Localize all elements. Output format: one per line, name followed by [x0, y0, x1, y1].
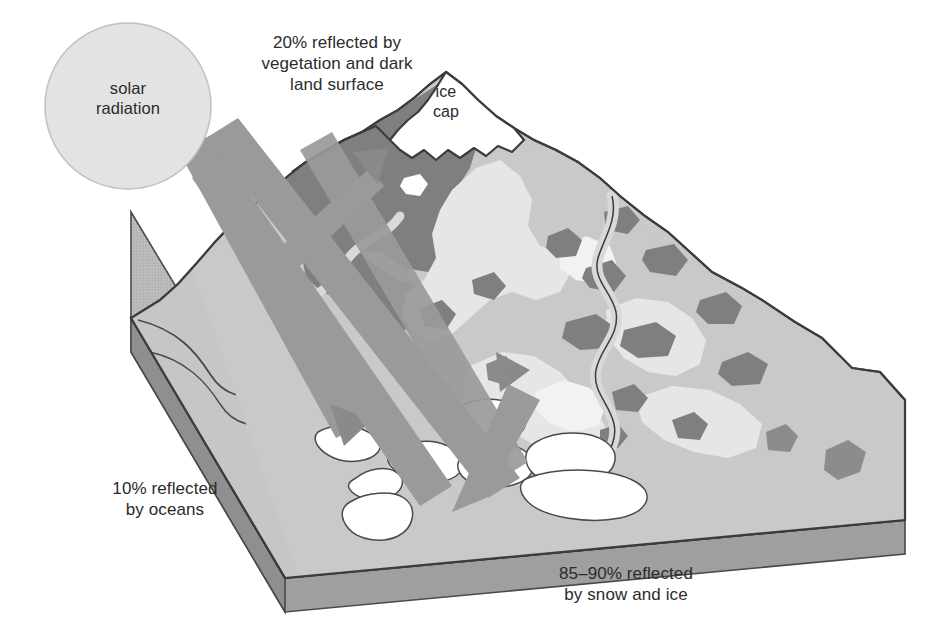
ice-cap-label: ice cap [414, 82, 478, 122]
snow-ice-reflection-label: 85–90% reflected by snow and ice [516, 563, 736, 605]
ocean-reflection-label: 10% reflected by oceans [70, 478, 260, 520]
diagram-canvas: solar radiation 20% reflected by vegetat… [0, 0, 952, 630]
solar-radiation-label: solar radiation [68, 78, 188, 118]
